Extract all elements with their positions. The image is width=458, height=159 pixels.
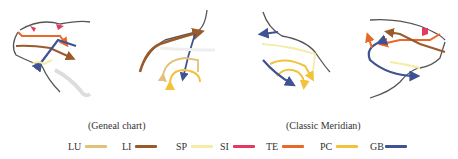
legend-label: PC xyxy=(320,141,332,152)
caption-classic-meridian: (Classic Meridian) xyxy=(286,120,361,131)
panel-head-side-left xyxy=(13,21,90,95)
legend-item-li: LI xyxy=(122,141,157,152)
legend-label: LU xyxy=(68,141,81,152)
legend-item-pc: PC xyxy=(320,141,358,152)
legend: LU LI SP SI TE PC GB xyxy=(0,141,458,155)
legend-swatch xyxy=(85,145,107,148)
legend-item-si: SI xyxy=(220,141,255,152)
legend-swatch xyxy=(385,145,407,148)
legend-swatch xyxy=(191,145,213,148)
meridian-diagram xyxy=(0,0,458,140)
legend-item-lu: LU xyxy=(68,141,107,152)
panel-arm-right xyxy=(262,12,330,86)
legend-label: TE xyxy=(266,141,278,152)
panel-arm-left xyxy=(140,10,215,84)
legend-label: LI xyxy=(122,141,131,152)
legend-item-te: TE xyxy=(266,141,304,152)
legend-label: SI xyxy=(220,141,229,152)
legend-item-gb: GB xyxy=(370,141,407,152)
legend-item-sp: SP xyxy=(176,141,213,152)
legend-swatch xyxy=(135,145,157,148)
legend-label: GB xyxy=(370,141,384,152)
legend-label: SP xyxy=(176,141,187,152)
panel-head-side-right xyxy=(368,20,445,98)
legend-swatch xyxy=(282,145,304,148)
legend-swatch xyxy=(336,145,358,148)
legend-swatch xyxy=(233,145,255,148)
caption-general-chart: (Geneal chart) xyxy=(88,120,145,131)
